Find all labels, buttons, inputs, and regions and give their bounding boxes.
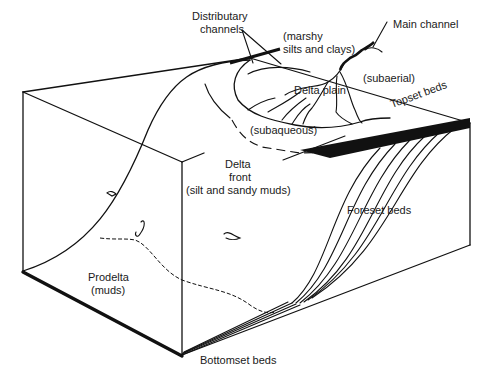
delta-front-boundary [205, 84, 230, 118]
main-channel-mouth [365, 48, 382, 52]
delta-block-diagram: Distributary channels (marshy silts and … [0, 0, 488, 379]
label-distributary-channels-1: Distributary [192, 10, 248, 22]
bottomset-lines [182, 302, 300, 355]
label-subaqueous: (subaqueous) [250, 124, 317, 136]
label-delta-plain: Delta plain [294, 84, 346, 96]
label-delta-front-3: (silt and sandy muds) [186, 184, 291, 196]
label-prodelta-2: (muds) [91, 284, 125, 296]
label-distributary-channels-2: channels [200, 23, 245, 35]
label-foreset-beds: Foreset beds [347, 204, 412, 216]
label-marshy-1: (marshy [283, 30, 323, 42]
label-marshy-2: silts and clays) [283, 43, 355, 55]
label-delta-front-2: front [229, 171, 251, 183]
current-arrow-icons [107, 191, 240, 239]
label-bottomset-beds: Bottomset beds [200, 354, 277, 366]
delta-slope-curve [23, 60, 250, 271]
label-delta-front-1: Delta [225, 158, 252, 170]
label-subaerial: (subaerial) [363, 72, 415, 84]
label-main-channel: Main channel [393, 18, 458, 30]
label-prodelta-1: Prodelta [88, 271, 130, 283]
